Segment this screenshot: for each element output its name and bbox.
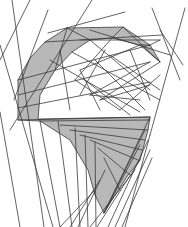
line-segment: [0, 0, 30, 60]
line-segment: [80, 50, 105, 95]
line-segment: [40, 121, 60, 227]
line-segment: [95, 60, 145, 110]
line-segment: [10, 0, 92, 130]
line-segment: [0, 112, 20, 227]
spiral-line-art: [0, 0, 188, 227]
line-segment: [80, 45, 140, 70]
line-segment: [150, 40, 160, 45]
line-segment: [160, 30, 183, 65]
line-segment: [150, 8, 185, 135]
line-segment: [123, 27, 160, 62]
line-segment: [152, 8, 180, 80]
